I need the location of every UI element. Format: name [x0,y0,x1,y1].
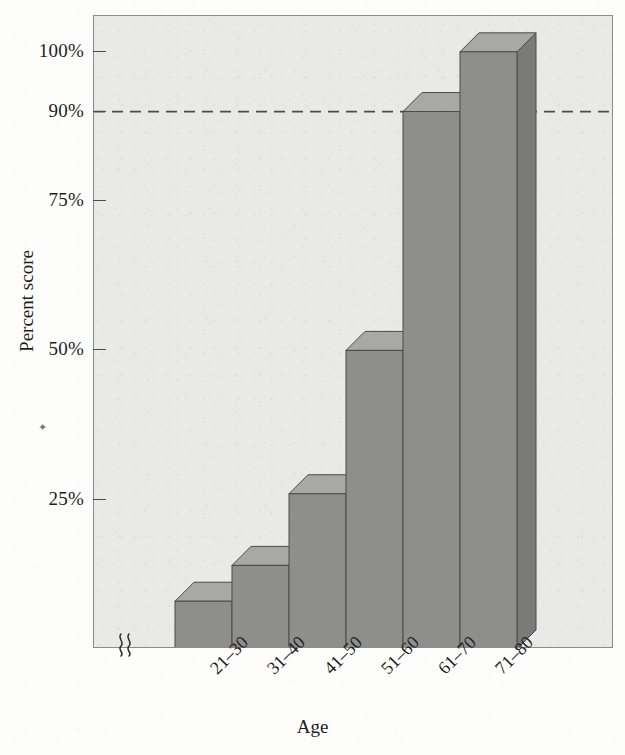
plot-area [93,15,613,648]
y-tick-mark-90 [93,111,106,112]
scan-speck: ✦ [38,424,45,431]
y-tick-mark-100 [93,51,106,52]
bar-front-face [289,494,346,648]
bar-front-face [403,112,460,648]
y-tick-mark-75 [93,200,106,201]
bars-layer [94,16,613,648]
y-tick-label-25: 25% [49,489,84,508]
y-tick-mark-50 [93,349,106,350]
y-tick-mark-25 [93,499,106,500]
bar-side-face [517,33,536,648]
y-tick-label-90: 90% [49,101,84,120]
x-axis-title: Age [0,716,625,738]
y-axis-tick-labels: 100%90%75%50%25% [0,0,84,755]
chart-figure: 100%90%75%50%25% Percent score 21–3031–4… [0,0,625,755]
y-axis-title: Percent score [16,206,38,396]
y-tick-label-75: 75% [49,190,84,209]
y-tick-label-50: 50% [49,339,84,358]
bar-front-face [460,52,517,648]
bar-front-face [346,350,403,648]
bar-71-80 [460,33,536,648]
axis-break-icon [115,632,137,658]
y-tick-label-100: 100% [39,41,84,60]
bar-front-face [175,601,232,648]
